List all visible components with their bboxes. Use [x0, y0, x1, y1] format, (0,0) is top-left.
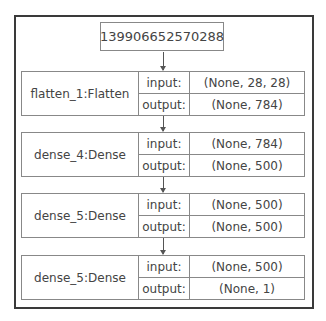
input-port-label: input: [139, 72, 189, 94]
output-shape: (None, 784) [190, 94, 304, 115]
arrow-icon [163, 238, 164, 254]
input-port-label: input: [139, 256, 189, 278]
layer-name: dense_4:Dense [22, 133, 139, 176]
input-node-label: 139906652570288 [100, 29, 224, 44]
layer-name: dense_5:Dense [22, 256, 139, 299]
input-port-label: input: [139, 133, 189, 155]
layer-name: flatten_1:Flatten [22, 72, 139, 115]
input-shape: (None, 784) [190, 133, 304, 155]
arrow-icon [163, 116, 164, 131]
layer-node-dense-4: dense_4:Dense input: output: (None, 784)… [21, 132, 305, 177]
layer-node-dense-5: dense_5:Dense input: output: (None, 500)… [21, 193, 305, 238]
output-port-label: output: [139, 94, 189, 115]
input-shape: (None, 500) [190, 194, 304, 216]
output-shape: (None, 1) [190, 278, 304, 299]
layer-name: dense_5:Dense [22, 194, 139, 237]
layer-node-flatten-1: flatten_1:Flatten input: output: (None, … [21, 71, 305, 116]
arrow-icon [163, 177, 164, 192]
input-node: 139906652570288 [100, 22, 224, 51]
output-port-label: output: [139, 155, 189, 176]
input-shape: (None, 28, 28) [190, 72, 304, 94]
layer-node-dense-5-output: dense_5:Dense input: output: (None, 500)… [21, 255, 305, 300]
output-port-label: output: [139, 278, 189, 299]
input-port-label: input: [139, 194, 189, 216]
arrow-icon [163, 52, 164, 70]
input-shape: (None, 500) [190, 256, 304, 278]
output-shape: (None, 500) [190, 155, 304, 176]
output-port-label: output: [139, 216, 189, 237]
output-shape: (None, 500) [190, 216, 304, 237]
